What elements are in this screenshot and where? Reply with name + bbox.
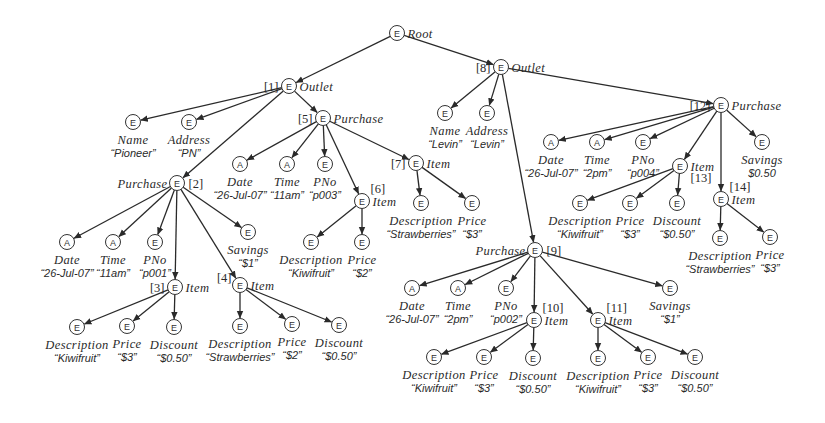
node-value: “p002” [490,313,523,325]
node-value: “Strawberries” [205,351,275,363]
node-type-letter: E [418,199,424,209]
node-type-letter: E [286,82,292,92]
node-value: “$3” [620,228,641,240]
edge-n12-to-n12_sav [727,110,756,137]
node-value: “Levin” [470,138,505,150]
edge-n10-to-n10_disc [533,327,534,350]
node-id-label: [6] [371,182,386,196]
node-value: $0.50 [747,167,776,179]
node-value: “$0.50” [157,352,193,364]
node-value: “Kiwifruit” [575,383,622,395]
node-label: Price [614,214,644,228]
node-value: “$3” [638,382,659,394]
tree-node-n9_date: ADate“26-Jul-07” [385,281,440,325]
node-label: Discount [508,369,557,383]
edge-n1-to-n5 [294,91,317,112]
node-type-letter: E [469,199,475,209]
tree-node-n10_disc: EDiscount“$0.50” [508,351,557,395]
node-value: “$3” [474,382,495,394]
node-value: “Strawberries” [386,228,456,240]
node-type-letter: E [237,322,243,332]
edge-n2-to-n4 [181,189,236,278]
node-type-letter: E [245,228,251,238]
nodes-layer: ERootEOutlet[1]EName“Pioneer”EAddress“PN… [40,26,784,395]
node-value: “$2” [282,349,303,361]
node-label: Savings [649,299,691,313]
node-value: “$0.50” [516,383,552,395]
edge-n9-to-n10 [534,257,535,312]
node-value: “$3” [760,262,781,274]
edge-n5-to-n5_time [292,124,318,158]
tree-node-n10_price: EPrice“$3” [468,350,498,394]
tree-node-n8_name: EName“Levin” [428,106,463,150]
tree-node-n7_price: EPrice“$3” [456,196,486,240]
tree-node-n11_desc: EDescription“Kiwifruit” [565,351,629,395]
tree-node-n10_desc: EDescription“Kiwifruit” [401,350,465,394]
node-label: Date [537,153,564,167]
node-value: “Kiwifruit” [557,228,604,240]
tree-node-n9_sav: ESavings“$1” [649,281,691,325]
edge-n5-to-n7 [330,121,409,159]
tree-node-n13_disc: EDiscount“$0.50” [652,196,701,240]
node-label: PNo [493,299,517,313]
edge-n14-to-n14_price [727,204,764,233]
tree-node-n3: EItem[3] [150,280,209,295]
node-value: “Kiwifruit” [411,382,458,394]
node-label: Price [346,253,376,267]
tree-node-n1_name: EName“Pioneer” [110,115,157,159]
node-type-letter: E [152,238,158,248]
tree-node-n4: EItem[4] [217,271,274,293]
tree-node-n3_price: EPrice“$3” [111,319,141,363]
node-label: Description [687,249,751,263]
node-type-letter: E [767,233,773,243]
tree-node-n2: EPurchase[2] [117,176,204,191]
tree-node-n2_sav: ESavings“$1” [227,225,269,269]
tree-node-n11_price: EPrice“$3” [632,350,662,394]
tree-node-n10: EItem[10] [527,301,569,328]
node-label: Date [398,299,425,313]
node-type-letter: E [289,320,295,330]
edge-n12-to-n13 [684,111,716,159]
node-type-letter: A [455,284,461,294]
node-type-letter: E [498,63,504,73]
tree-node-n1: EOutlet[1] [264,79,333,94]
tree-node-n2_time: ATime“11am” [96,235,131,279]
edge-n2-to-n2_date [74,187,170,239]
edge-n8-to-n9 [502,74,533,242]
tree-node-n8_addr: EAddress“Levin” [465,106,509,150]
node-type-letter: E [759,138,765,148]
node-label: Item [185,281,210,295]
tree-node-n9: EPurchase[9] [475,243,562,258]
node-label: Discount [149,338,198,352]
node-type-letter: E [692,353,698,363]
edge-n8-to-n8_name [451,72,495,108]
edge-root-to-n1 [296,36,390,82]
edge-n1-to-n1_name [141,88,282,121]
node-value: “26-Jul-07” [213,189,268,201]
node-type-letter: E [503,284,509,294]
node-label: PNo [630,153,654,167]
tree-node-n9_time: ATime“2pm” [444,281,474,325]
node-label: Time [584,153,610,167]
node-id-label: [8] [476,61,491,75]
node-type-letter: E [186,118,192,128]
node-type-letter: E [481,353,487,363]
node-type-letter: E [677,162,683,172]
node-value: “Kiwifruit” [54,352,101,364]
node-label: Description [207,337,271,351]
node-label: Outlet [512,61,546,75]
tree-node-n7_desc: EDescription“Strawberries” [386,196,456,240]
node-value: “11am” [270,189,305,201]
node-type-letter: E [531,316,537,326]
edge-n8-to-n8_addr [489,74,498,105]
node-type-letter: A [548,138,554,148]
node-value: “PN” [178,147,202,159]
node-type-letter: E [717,234,723,244]
node-value: “26-Jul-07” [524,167,579,179]
node-label: Savings [741,153,783,167]
node-label: Item [250,279,275,293]
tree-node-n6: EItem[6] [355,182,397,209]
edge-n7-to-n7_desc [417,170,420,195]
node-type-letter: A [409,284,415,294]
node-type-letter: E [308,238,314,248]
